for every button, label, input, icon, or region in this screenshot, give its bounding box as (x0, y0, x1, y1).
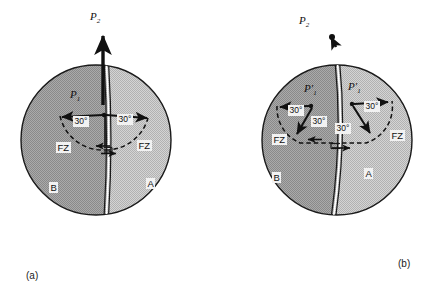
pole-label-p2-a: P2 (90, 10, 100, 25)
panel-a (21, 30, 200, 250)
p1-prime-left-point-b (309, 104, 313, 108)
panel-b (262, 30, 430, 250)
fz-label-a-right: FZ (137, 140, 152, 151)
fz-label-a-left: FZ (56, 142, 71, 153)
caption-a: (a) (26, 270, 38, 281)
angle-label-b-2: 30° (311, 116, 327, 127)
caption-b: (b) (398, 258, 410, 269)
plate-a-fill (104, 30, 200, 250)
p1-prime-right-point-b (350, 102, 354, 106)
angle-label-b-3: 30° (364, 101, 380, 112)
plate-b-region (328, 30, 430, 250)
plate-label-b-a: B (49, 182, 58, 193)
plate-label-b-b: B (272, 172, 281, 183)
pole-label-p1-a: P1 (70, 88, 80, 103)
angle-label-a-right: 30° (117, 114, 133, 125)
angle-label-b-4: 30° (335, 123, 351, 134)
fz-label-b-left: FZ (272, 134, 287, 145)
pole-label-p1-prime-left-b: P′1 (304, 82, 317, 97)
pole-label-p2-b: P2 (299, 14, 309, 29)
plate-label-a-b: A (364, 168, 373, 179)
fz-label-b-right: FZ (390, 130, 405, 141)
angle-label-a-left: 30° (73, 116, 89, 127)
plate-b-fill (328, 30, 430, 250)
angle-label-b-1: 30° (288, 105, 304, 116)
pole-label-p1-prime-right-b: P′1 (348, 80, 361, 95)
plate-label-a-a: A (146, 178, 155, 189)
plate-a-region (104, 30, 200, 250)
